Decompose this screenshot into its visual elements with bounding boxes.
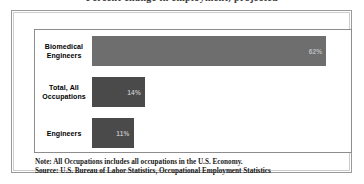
bar-category-label: Engineers [37, 129, 91, 138]
bar-total-all-occupations: 14% [92, 77, 145, 107]
bar-track: 14% [92, 77, 349, 107]
bar-row: Engineers 11% [35, 113, 351, 154]
bar-engineers: 11% [92, 118, 134, 148]
chart-figure: Percent change in employment, projected … [0, 0, 364, 184]
bar-row: Total, All Occupations 14% [35, 71, 351, 112]
bar-category-label-line: Occupations [37, 92, 91, 101]
note-line: Note: All Occupations includes all occup… [35, 158, 335, 167]
bar-value-label: 62% [309, 47, 323, 54]
bar-track: 62% [92, 36, 349, 66]
bar-biomedical-engineers: 62% [92, 36, 326, 66]
bar-category-label: Biomedical Engineers [37, 42, 91, 60]
plot-area: Biomedical Engineers 62% Total, All Occu… [34, 29, 352, 153]
bar-value-label: 14% [127, 88, 141, 95]
chart-title: Percent change in employment, projected [86, 0, 278, 3]
bar-category-label: Total, All Occupations [37, 83, 91, 101]
bar-category-label-line: Engineers [37, 129, 91, 138]
source-line: Source: U.S. Bureau of Labor Statistics,… [35, 167, 335, 176]
bar-category-label-line: Engineers [37, 51, 91, 60]
bar-row: Biomedical Engineers 62% [35, 30, 351, 71]
figure-frame: Biomedical Engineers 62% Total, All Occu… [11, 10, 352, 173]
bar-category-label-line: Biomedical [37, 42, 91, 51]
chart-title-strip: Percent change in employment, projected [0, 0, 364, 9]
bar-track: 11% [92, 118, 349, 148]
bar-category-label-line: Total, All [37, 83, 91, 92]
bar-value-label: 11% [116, 130, 129, 137]
chart-footnotes: Note: All Occupations includes all occup… [35, 158, 335, 177]
